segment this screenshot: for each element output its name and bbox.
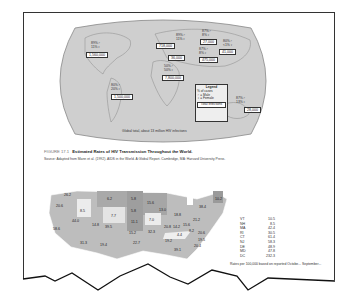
- region-jp-total: 41,000: [219, 49, 236, 55]
- region-af-pct: 50%♂50%♀: [164, 65, 173, 72]
- region-au-pct: 87%♂13%♀: [236, 97, 245, 104]
- region-sa-total: 475,000: [199, 57, 218, 63]
- state-value: 7.7: [111, 214, 116, 218]
- state-value: 13.0: [159, 208, 166, 212]
- state-value: 6.2: [107, 197, 112, 201]
- state-value: 14.2: [173, 225, 180, 229]
- state-value: 21.2: [193, 218, 200, 222]
- state-value: 32.3: [148, 230, 155, 234]
- state-value: 20.4: [194, 244, 201, 248]
- figure-caption: FIGURE 17.1 Estimated Rates of HIV Trans…: [44, 149, 193, 154]
- state-value: 5.8: [131, 197, 136, 201]
- legend-total-box: Total Infections: [197, 102, 226, 108]
- state-value: 26.2: [64, 193, 71, 197]
- state-value: 8.2: [189, 229, 194, 233]
- state-value: 20.6: [56, 204, 63, 208]
- state-value: 4.4: [177, 233, 182, 237]
- small-states-table: VT10.5 NH8.5 MA42.4 RI30.5 CT61.4 NJ58.3…: [240, 217, 275, 258]
- state-value: 11.1: [131, 220, 138, 224]
- state-value: 44.0: [72, 219, 79, 223]
- state-value: 8.5: [80, 209, 85, 213]
- state-value: 19.5: [198, 238, 205, 242]
- state-value: 22.7: [133, 241, 140, 245]
- state-value: 39.5: [105, 225, 112, 229]
- region-weu-pct: 89%♂11%♀: [176, 34, 185, 41]
- region-na-pct: 89%♂11%♀: [91, 42, 100, 49]
- figure-source: Source: Adapted from Mann et al. (1992).…: [44, 157, 244, 161]
- region-la-total: 1,500,000: [111, 94, 133, 100]
- state-value: 10.2: [215, 197, 222, 201]
- state-value: 5.8: [131, 209, 136, 213]
- figure-number: FIGURE 17.1: [44, 149, 69, 154]
- region-eeu-total: 36,000: [168, 55, 185, 61]
- region-sa-pct: 87%♂8%♀: [199, 48, 208, 55]
- state-value: 31.3: [80, 241, 87, 245]
- legend-female: ♀ = Female: [197, 97, 226, 101]
- world-map: [45, 18, 281, 144]
- state-value: 39.1: [174, 248, 181, 252]
- state-value: 7.0: [149, 218, 154, 222]
- rates-footnote: Rates per 100,000 based on reported Octo…: [230, 262, 321, 266]
- state-value: 18.8: [174, 213, 181, 217]
- state-value: 20.6: [198, 231, 205, 235]
- map-legend: Legend % of cases ♂ = Male ♀ = Female To…: [195, 84, 228, 122]
- state-value: 15.2: [129, 231, 136, 235]
- state-value: 15.6: [183, 223, 190, 227]
- state-value: 19.4: [100, 243, 107, 247]
- state-value: 20.8: [164, 225, 171, 229]
- region-na-total: 1,560,000: [86, 52, 108, 58]
- region-weu-total: 718,000: [156, 43, 175, 49]
- state-value: 19.2: [165, 239, 172, 243]
- figure-title: Estimated Rates of HIV Transmission Thro…: [72, 149, 192, 154]
- region-la-pct: 80%♂20%♀: [111, 84, 120, 91]
- region-au-total: 28,000: [244, 107, 261, 113]
- region-jp-pct: 80%♂<1%♀: [223, 40, 232, 47]
- state-value: 38.4: [199, 205, 206, 209]
- state-value: 14.8: [92, 223, 99, 227]
- state-value: 15.6: [147, 201, 154, 205]
- region-ea-pct: 87%♂8%♀: [202, 30, 211, 37]
- global-total-note: Global total, about 13 million HIV infec…: [122, 129, 187, 133]
- region-ea-total: 27,000: [200, 39, 217, 45]
- region-af-total: 7,800,000: [162, 75, 184, 81]
- state-value: 58.6: [53, 227, 60, 231]
- table-row: DC232.3: [240, 254, 275, 259]
